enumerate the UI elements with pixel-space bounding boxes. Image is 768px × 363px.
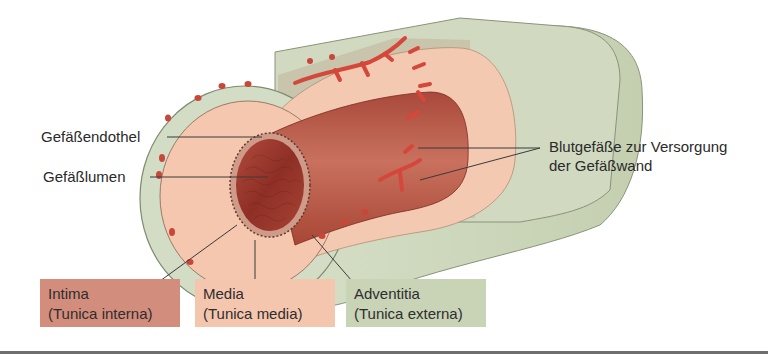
layer-name-intima: Intima (48, 284, 174, 304)
bottom-divider (0, 351, 768, 354)
layer-name-media: Media (203, 284, 329, 304)
layer-box-media: Media (Tunica media) (195, 279, 335, 327)
callout-endothel: Gefäßendothel (41, 128, 140, 146)
callout-lumen: Gefäßlumen (43, 168, 126, 186)
callout-vasa-line1: Blutgefäße zur Versorgung (549, 138, 727, 156)
vessel-wall-diagram: Gefäßendothel Gefäßlumen Blutgefäße zur … (0, 0, 768, 363)
lumen-opening (236, 139, 304, 231)
callout-vasa-line2: der Gefäßwand (549, 157, 652, 175)
layer-latin-media: (Tunica media) (203, 304, 329, 324)
layer-latin-intima: (Tunica interna) (48, 304, 174, 324)
layer-latin-adventitia: (Tunica externa) (354, 304, 480, 324)
layer-box-adventitia: Adventitia (Tunica externa) (346, 279, 486, 327)
layer-name-adventitia: Adventitia (354, 284, 480, 304)
layer-box-intima: Intima (Tunica interna) (40, 279, 180, 327)
